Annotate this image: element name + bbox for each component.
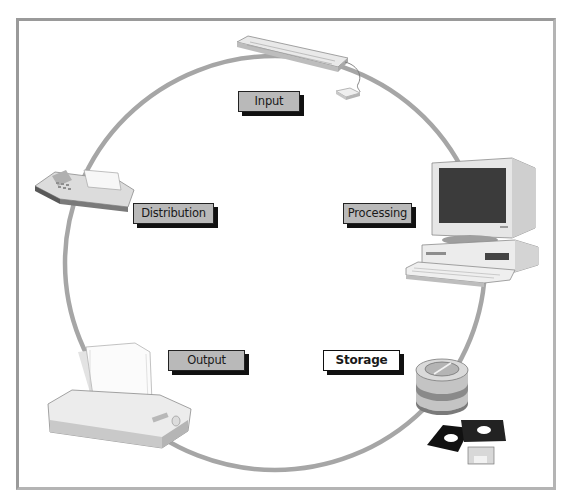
fax-machine-icon	[35, 170, 134, 212]
keyboard-icon	[237, 36, 348, 72]
stage-label-distribution: Distribution	[133, 203, 214, 224]
mouse-icon	[336, 88, 360, 100]
stage-label-input: Input	[238, 91, 300, 112]
cycle-diagram	[0, 0, 572, 504]
disk-drive-icon	[416, 359, 468, 415]
stage-label-storage: Storage	[323, 350, 400, 371]
desktop-computer-icon	[406, 158, 538, 287]
stage-label-output: Output	[168, 350, 245, 371]
floppy-disks-icon	[427, 420, 506, 464]
stage-label-processing: Processing	[343, 203, 412, 224]
